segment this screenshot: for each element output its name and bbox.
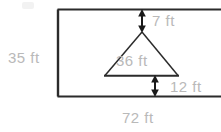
top-gap-arrow	[138, 9, 146, 33]
top-gap-label: 7 ft	[152, 13, 175, 28]
rectangle-width-label: 72 ft	[122, 110, 154, 125]
triangle-base-label: 36 ft	[116, 53, 148, 68]
bottom-gap-arrow	[151, 75, 159, 97]
figure-canvas	[0, 0, 221, 132]
rectangle-height-label: 35 ft	[8, 50, 40, 65]
bottom-gap-label: 12 ft	[170, 79, 202, 94]
top-gap-arrowhead-down	[138, 26, 146, 34]
geometry-figure: 35 ft 7 ft 36 ft 12 ft 72 ft	[0, 0, 221, 132]
